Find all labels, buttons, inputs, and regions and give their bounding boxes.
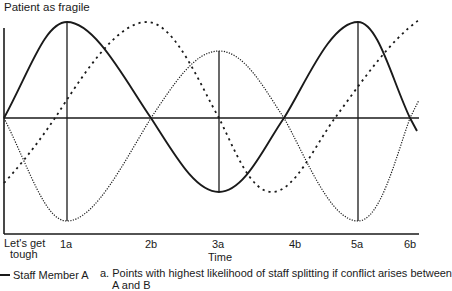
solid-line-swatch-icon <box>0 274 10 276</box>
x-tick-2b: 2b <box>145 238 157 250</box>
x-tick-1a: 1a <box>60 238 72 250</box>
x-axis-title: Time <box>208 251 232 263</box>
x-tick-6b: 6b <box>404 238 416 250</box>
legend-staff-a-label: Staff Member A <box>13 269 89 281</box>
x-tick-3a: 3a <box>212 238 224 250</box>
legend-staff-a: Staff Member A <box>0 269 89 281</box>
x-tick-5a: 5a <box>351 238 363 250</box>
x-tick-4b: 4b <box>289 238 301 250</box>
y-axis-title: Patient as fragile <box>4 1 90 13</box>
x-tick-start: Let's get tough <box>4 238 45 260</box>
series-staff-a-solid <box>4 22 417 192</box>
series-fine-dotted <box>4 51 419 221</box>
footnote-line1: a. Points with highest likelihood of sta… <box>100 268 452 279</box>
x-tick-start-line2: tough <box>4 249 45 260</box>
series-dashed <box>4 20 419 192</box>
footnote-line2: A and B <box>112 279 151 291</box>
